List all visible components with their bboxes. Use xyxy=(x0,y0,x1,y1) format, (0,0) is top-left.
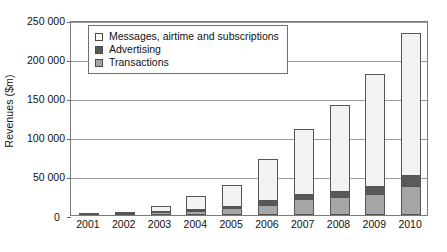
legend-item[interactable]: Advertising xyxy=(95,43,279,56)
bar-segment-transactions[interactable] xyxy=(258,205,278,215)
y-axis-tick-label: 250 000 xyxy=(27,16,65,27)
y-axis-tick-label: 50 000 xyxy=(33,172,65,183)
y-axis-tick-labels: 50 000100 000150 000200 000250 000 xyxy=(18,0,68,252)
bar-group[interactable] xyxy=(401,20,421,215)
bar-segment-messages[interactable] xyxy=(79,213,99,215)
x-axis-tick-label: 2001 xyxy=(70,219,106,230)
x-axis-tick-label: 2007 xyxy=(285,219,321,230)
x-axis-tick-label: 2010 xyxy=(392,219,428,230)
bar-group[interactable] xyxy=(294,20,314,215)
bar-segment-messages[interactable] xyxy=(294,129,314,195)
bar-segment-advertising[interactable] xyxy=(258,201,278,205)
x-axis-tick-label: 2002 xyxy=(106,219,142,230)
bar-segment-transactions[interactable] xyxy=(330,197,350,215)
bar-segment-messages[interactable] xyxy=(115,212,135,214)
bar-segment-advertising[interactable] xyxy=(330,192,350,198)
bar-segment-messages[interactable] xyxy=(186,196,206,210)
y-axis-zero-label: 0 xyxy=(54,211,60,223)
y-axis-title: Revenues ($m) xyxy=(0,0,18,222)
y-axis-title-label: Revenues ($m) xyxy=(3,74,15,147)
legend-item-label: Advertising xyxy=(109,44,161,55)
bar-segment-messages[interactable] xyxy=(365,74,385,186)
y-axis-tick xyxy=(67,217,71,218)
x-axis-tick-label: 2005 xyxy=(213,219,249,230)
bar-segment-advertising[interactable] xyxy=(294,195,314,199)
y-axis-tick-label: 150 000 xyxy=(27,94,65,105)
x-axis-tick-label: 2006 xyxy=(249,219,285,230)
y-axis-tick-label: 100 000 xyxy=(27,133,65,144)
bar-segment-messages[interactable] xyxy=(330,105,350,192)
bar-group[interactable] xyxy=(365,20,385,215)
stacked-bar-chart: Revenues ($m) 50 000100 000150 000200 00… xyxy=(0,0,447,252)
legend-item-label: Messages, airtime and subscriptions xyxy=(109,31,279,42)
bar-segment-messages[interactable] xyxy=(151,206,171,212)
legend-swatch-transactions-icon xyxy=(95,59,103,67)
bar-segment-transactions[interactable] xyxy=(294,199,314,215)
bar-segment-messages[interactable] xyxy=(222,185,242,207)
bar-segment-transactions[interactable] xyxy=(365,194,385,215)
x-axis-tick-label: 2003 xyxy=(142,219,178,230)
legend-item[interactable]: Messages, airtime and subscriptions xyxy=(95,30,279,43)
x-axis-tick-label: 2008 xyxy=(321,219,357,230)
bar-segment-messages[interactable] xyxy=(401,33,421,176)
bar-segment-messages[interactable] xyxy=(258,159,278,201)
chart-legend: Messages, airtime and subscriptionsAdver… xyxy=(88,25,288,74)
x-axis-tick-labels: 2001200220032004200520062007200820092010 xyxy=(70,219,428,239)
legend-item[interactable]: Transactions xyxy=(95,56,279,69)
legend-swatch-messages-icon xyxy=(95,33,103,41)
y-axis-tick-label: 200 000 xyxy=(27,55,65,66)
x-axis-tick-label: 2009 xyxy=(356,219,392,230)
bar-segment-transactions[interactable] xyxy=(151,212,171,215)
bar-segment-transactions[interactable] xyxy=(186,211,206,215)
bar-segment-transactions[interactable] xyxy=(222,208,242,215)
legend-item-label: Transactions xyxy=(109,57,169,68)
bar-segment-advertising[interactable] xyxy=(365,187,385,194)
bar-segment-transactions[interactable] xyxy=(401,186,421,215)
bar-group[interactable] xyxy=(330,20,350,215)
legend-swatch-advertising-icon xyxy=(95,46,103,54)
x-axis-tick-label: 2004 xyxy=(177,219,213,230)
bar-segment-advertising[interactable] xyxy=(401,176,421,187)
